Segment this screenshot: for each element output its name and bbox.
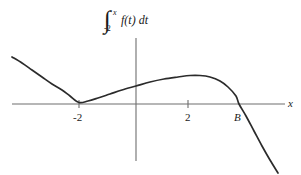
x-intercept-label-b: B — [234, 112, 241, 123]
x-tick-label-2: 2 — [185, 112, 191, 123]
figure-canvas: ∫ x -2 f(t) dt -2 2 B x — [0, 0, 301, 175]
x-tick-label-minus-2: -2 — [73, 112, 82, 123]
x-axis-label: x — [288, 98, 293, 109]
plot-area — [0, 0, 301, 175]
